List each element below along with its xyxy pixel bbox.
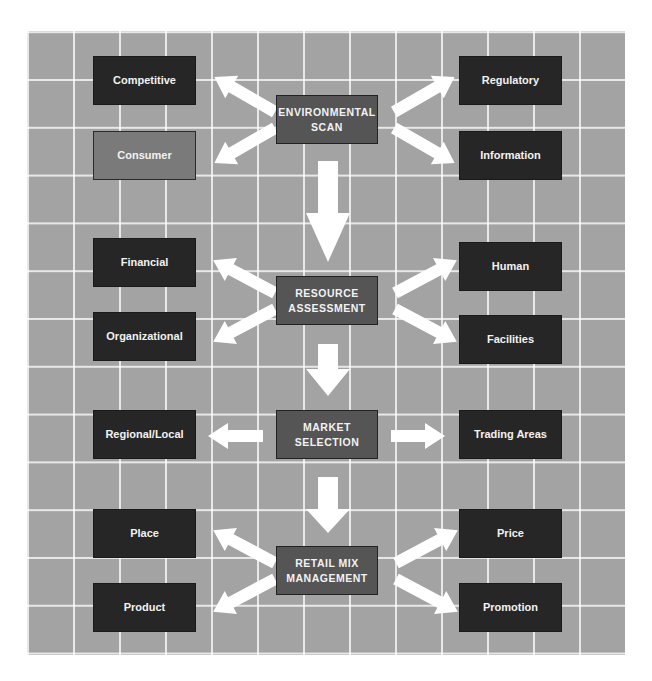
box-trading-areas: Trading Areas bbox=[459, 410, 562, 459]
box-financial: Financial bbox=[93, 238, 196, 287]
box-promotion: Promotion bbox=[459, 583, 562, 632]
box-organizational: Organizational bbox=[93, 312, 196, 361]
box-regional-local: Regional/Local bbox=[93, 410, 196, 459]
box-retail-mix-management: RETAIL MIX MANAGEMENT bbox=[276, 546, 378, 595]
box-resource-assessment: RESOURCE ASSESSMENT bbox=[276, 276, 378, 325]
box-human: Human bbox=[459, 242, 562, 291]
box-regulatory: Regulatory bbox=[459, 56, 562, 105]
box-information: Information bbox=[459, 131, 562, 180]
box-consumer: Consumer bbox=[93, 131, 196, 180]
box-product: Product bbox=[93, 583, 196, 632]
box-facilities: Facilities bbox=[459, 315, 562, 364]
box-environmental-scan: ENVIRONMENTAL SCAN bbox=[276, 95, 378, 144]
box-competitive: Competitive bbox=[93, 56, 196, 105]
box-market-selection: MARKET SELECTION bbox=[276, 410, 378, 459]
box-place: Place bbox=[93, 509, 196, 558]
box-price: Price bbox=[459, 509, 562, 558]
